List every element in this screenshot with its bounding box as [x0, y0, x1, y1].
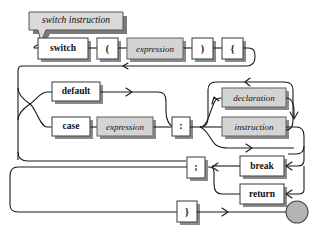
label-default[interactable]: default	[62, 87, 91, 97]
label-semicolon[interactable]: ;	[194, 162, 197, 172]
end-marker	[286, 201, 308, 223]
label-break[interactable]: break	[250, 162, 274, 172]
label-lparen[interactable]: (	[106, 44, 109, 54]
label-colon[interactable]: :	[179, 121, 182, 131]
label-switch[interactable]: switch	[50, 44, 76, 54]
label-instruction[interactable]: instruction	[234, 123, 273, 132]
label-lbrace[interactable]: {	[231, 44, 235, 54]
label-declaration[interactable]: declaration	[233, 94, 275, 103]
label-expr2[interactable]: expression	[106, 123, 144, 132]
title-label: switch instruction	[42, 16, 110, 26]
label-return[interactable]: return	[249, 190, 275, 200]
label-rbrace[interactable]: }	[185, 207, 189, 217]
label-expr1[interactable]: expression	[136, 44, 174, 53]
label-rparen[interactable]: )	[201, 44, 204, 54]
railroad-diagram-canvas: switch instruction switch ( expression )…	[0, 0, 322, 233]
label-case[interactable]: case	[63, 122, 80, 132]
